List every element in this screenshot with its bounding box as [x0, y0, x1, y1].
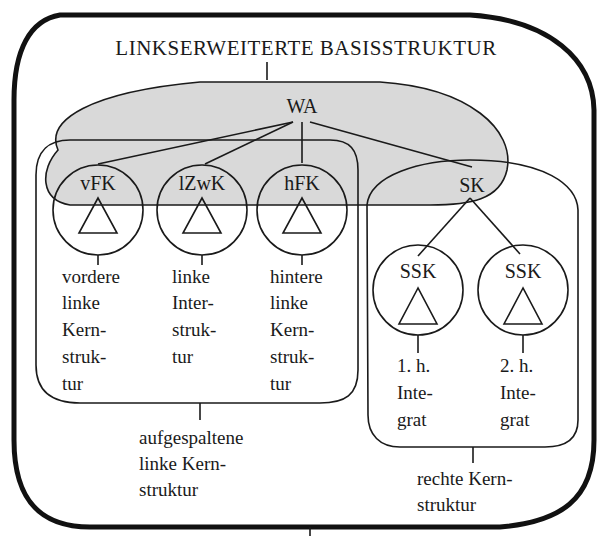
node-sk: SK — [459, 174, 485, 196]
svg-text:Kern-: Kern- — [270, 319, 314, 340]
svg-text:rechte Kern-: rechte Kern- — [417, 468, 512, 489]
svg-text:tur: tur — [172, 346, 194, 367]
right-group-label: rechte Kern- struktur — [417, 468, 512, 515]
svg-text:Kern-: Kern- — [62, 319, 106, 340]
svg-text:2. h.: 2. h. — [500, 355, 533, 376]
svg-text:struktur: struktur — [417, 494, 477, 515]
svg-text:SSK: SSK — [505, 260, 542, 282]
svg-text:tur: tur — [270, 373, 292, 394]
svg-text:Inte-: Inte- — [397, 382, 433, 403]
svg-text:lZwK: lZwK — [179, 172, 226, 194]
desc-hfk: hintere linke Kern- struk- tur — [270, 266, 323, 394]
svg-text:linke: linke — [172, 266, 210, 287]
svg-text:grat: grat — [500, 409, 530, 430]
svg-text:1. h.: 1. h. — [397, 355, 430, 376]
svg-text:tur: tur — [62, 373, 84, 394]
svg-text:struk-: struk- — [172, 319, 216, 340]
diagram-title: LINKSERWEITERTE BASISSTRUKTUR — [115, 36, 496, 60]
svg-text:struktur: struktur — [139, 479, 199, 500]
desc-lzwk: linke Inter- struk- tur — [172, 266, 216, 367]
svg-text:Inter-: Inter- — [172, 292, 214, 313]
desc-vfk: vordere linke Kern- struk- tur — [62, 266, 120, 394]
edge-sk-ssk1 — [418, 198, 470, 256]
svg-text:linke Kern-: linke Kern- — [139, 453, 226, 474]
node-wa: WA — [286, 95, 318, 117]
svg-text:SSK: SSK — [400, 260, 437, 282]
svg-text:grat: grat — [397, 409, 427, 430]
desc-ssk-1: 1. h. Inte- grat — [397, 355, 433, 430]
svg-text:aufgespaltene: aufgespaltene — [139, 427, 243, 448]
svg-text:hintere: hintere — [270, 266, 323, 287]
svg-text:linke: linke — [270, 292, 308, 313]
svg-text:vFK: vFK — [80, 172, 116, 194]
node-ssk-1: SSK — [373, 245, 463, 353]
svg-text:struk-: struk- — [270, 346, 314, 367]
desc-ssk-2: 2. h. Inte- grat — [500, 355, 536, 430]
svg-text:linke: linke — [62, 292, 100, 313]
node-ssk-2: SSK — [478, 245, 568, 353]
svg-text:hFK: hFK — [284, 172, 320, 194]
left-group-label: aufgespaltene linke Kern- struktur — [139, 427, 243, 500]
diagram-canvas: LINKSERWEITERTE BASISSTRUKTUR WA SK vFK … — [0, 0, 599, 536]
svg-text:Inte-: Inte- — [500, 382, 536, 403]
svg-text:struk-: struk- — [62, 346, 106, 367]
svg-text:vordere: vordere — [62, 266, 120, 287]
